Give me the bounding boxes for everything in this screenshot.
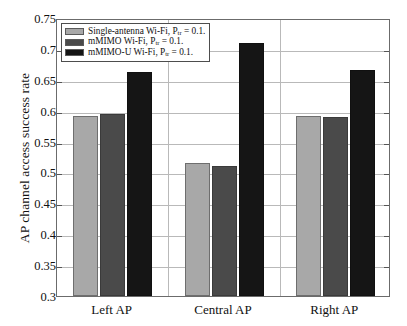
bar [239, 43, 264, 296]
y-tick-mark [384, 51, 389, 52]
y-tick-mark [384, 236, 389, 237]
y-tick-mark [57, 267, 62, 268]
legend-label: mMIMO Wi-Fi, Ptr = 0.1. [88, 37, 183, 47]
bar [212, 166, 237, 296]
y-tick-label: 0.75 [16, 13, 56, 26]
y-tick-mark [384, 82, 389, 83]
y-tick-label: 0.45 [16, 198, 56, 211]
gridline-vertical [280, 20, 281, 296]
y-tick-label: 0.3 [16, 291, 56, 304]
y-tick-label: 0.7 [16, 44, 56, 57]
legend-label: mMIMO-U Wi-Fi, Ptr = 0.1. [88, 48, 193, 58]
bar [127, 72, 152, 296]
bar [100, 114, 125, 296]
bar [185, 163, 210, 296]
y-tick-label: 0.35 [16, 260, 56, 273]
y-tick-mark [57, 82, 62, 83]
y-tick-mark [384, 174, 389, 175]
x-tick-label: Central AP [168, 302, 278, 318]
legend-label: Single-antenna Wi-Fi, Ptr = 0.1. [88, 27, 205, 37]
bar [296, 116, 321, 296]
y-tick-mark [384, 113, 389, 114]
y-tick-mark [57, 174, 62, 175]
gridline-horizontal [57, 82, 389, 83]
y-tick-mark [57, 113, 62, 114]
bar [323, 117, 348, 296]
legend-item: mMIMO-U Wi-Fi, Ptr = 0.1. [65, 48, 205, 58]
bar [73, 116, 98, 296]
y-tick-mark [57, 236, 62, 237]
y-tick-mark [384, 267, 389, 268]
y-tick-mark [57, 205, 62, 206]
y-tick-label: 0.65 [16, 75, 56, 88]
legend-swatch-icon [65, 49, 84, 56]
y-tick-mark [384, 144, 389, 145]
bar [350, 70, 375, 296]
y-tick-label: 0.6 [16, 106, 56, 119]
y-tick-label: 0.5 [16, 167, 56, 180]
y-tick-label: 0.4 [16, 229, 56, 242]
legend: Single-antenna Wi-Fi, Ptr = 0.1.mMIMO Wi… [61, 23, 210, 62]
y-tick-mark [384, 205, 389, 206]
y-axis-label: AP channel access success rate [17, 33, 33, 283]
legend-item: mMIMO Wi-Fi, Ptr = 0.1. [65, 37, 205, 47]
y-tick-label: 0.55 [16, 137, 56, 150]
x-tick-label: Right AP [279, 302, 389, 318]
bar-chart-figure: AP channel access success rate 0.30.350.… [0, 0, 407, 326]
y-tick-mark [57, 144, 62, 145]
legend-item: Single-antenna Wi-Fi, Ptr = 0.1. [65, 27, 205, 37]
legend-swatch-icon [65, 39, 84, 46]
legend-swatch-icon [65, 28, 84, 35]
x-tick-label: Left AP [57, 302, 167, 318]
